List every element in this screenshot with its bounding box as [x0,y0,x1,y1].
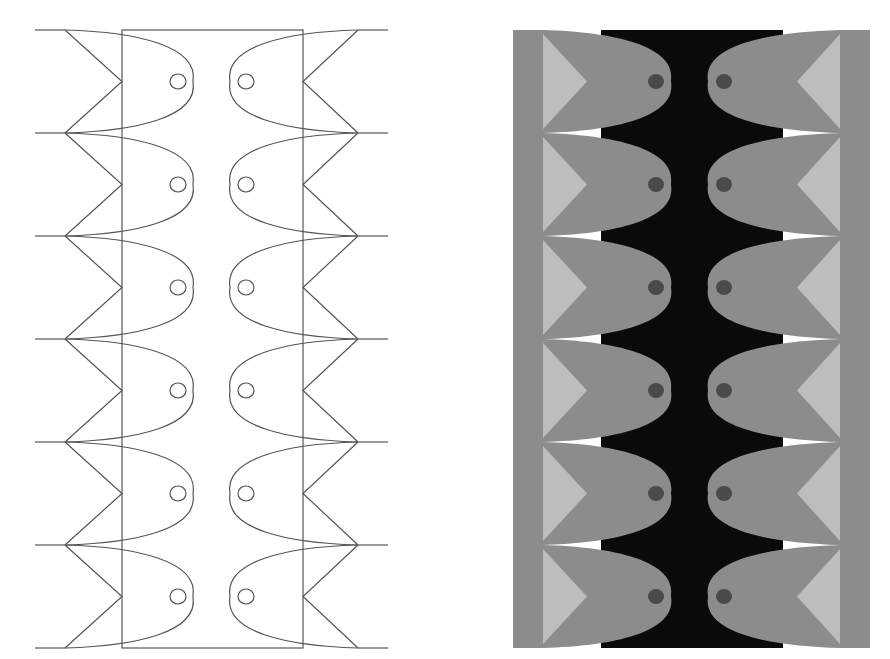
fish-outline-left [65,133,193,236]
fish-outline-right [230,236,358,339]
fish-eye-right [716,486,732,501]
fish-eye-right [238,177,254,192]
fish-eye-left [170,74,186,89]
fish-outline-right [230,545,358,648]
tail-zigzag-right [303,339,358,442]
tail-zigzag-right [303,236,358,339]
fish-eye-left [648,74,664,89]
fish-eye-right [716,177,732,192]
outer-band-right [840,30,870,648]
fish-outline-left [65,30,193,133]
fish-eye-right [238,383,254,398]
fish-outline-left [65,236,193,339]
tail-zigzag-left [65,133,122,236]
filled-drawing-panel [513,30,870,648]
fish-tessellation-figure [0,0,890,659]
outer-band-left [513,30,543,648]
tail-zigzag-right [303,133,358,236]
tail-zigzag-left [65,339,122,442]
fish-eye-left [170,177,186,192]
fish-eye-left [170,589,186,604]
fish-outline-right [230,30,358,133]
fish-eye-left [648,486,664,501]
fish-eye-right [716,383,732,398]
fish-eye-right [716,74,732,89]
tail-zigzag-right [303,545,358,648]
line-drawing-panel [35,30,388,648]
fish-eye-right [238,280,254,295]
fish-eye-right [716,280,732,295]
fish-outline-left [65,442,193,545]
fish-eye-right [238,589,254,604]
fish-outline-left [65,545,193,648]
tail-zigzag-left [65,545,122,648]
fish-eye-left [648,280,664,295]
fish-eye-left [648,383,664,398]
fish-eye-left [648,589,664,604]
tail-zigzag-right [303,30,358,133]
fish-eye-right [716,589,732,604]
fish-eye-left [648,177,664,192]
tail-zigzag-left [65,236,122,339]
fish-outline-right [230,442,358,545]
fish-eye-left [170,486,186,501]
fish-eye-right [238,74,254,89]
fish-eye-left [170,383,186,398]
fish-eye-right [238,486,254,501]
fish-outline-right [230,133,358,236]
tail-zigzag-left [65,30,122,133]
fish-eye-left [170,280,186,295]
tail-zigzag-right [303,442,358,545]
fish-outline-left [65,339,193,442]
fish-outline-right [230,339,358,442]
tail-zigzag-left [65,442,122,545]
